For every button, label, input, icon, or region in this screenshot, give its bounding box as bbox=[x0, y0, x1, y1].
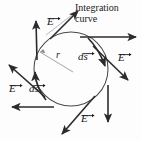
label-E-bottom: E bbox=[81, 113, 88, 124]
label-ds-left-text: ds bbox=[29, 82, 39, 94]
E-vector-bottom bbox=[62, 96, 95, 134]
label-ds-right: ds bbox=[78, 51, 88, 62]
label-E-top-left-text: E bbox=[47, 15, 54, 27]
label-E-right: E bbox=[118, 52, 125, 63]
label-E-left-text: E bbox=[9, 82, 16, 94]
label-E-top-left: E bbox=[47, 16, 54, 27]
radius-label: r bbox=[56, 50, 60, 60]
caption-line-1: Integration bbox=[75, 3, 119, 14]
label-E-bottom-text: E bbox=[81, 112, 88, 124]
integration-curve-circle bbox=[34, 32, 108, 106]
integration-curve-caption: Integration curve bbox=[75, 3, 119, 24]
E-vector-upper-left bbox=[36, 21, 37, 60]
label-ds-right-text: ds bbox=[78, 50, 88, 62]
figure-vector-graphics bbox=[0, 0, 141, 141]
label-E-right-text: E bbox=[118, 51, 125, 63]
caption-line-2: curve bbox=[75, 14, 119, 25]
E-vector-top-left bbox=[50, 11, 78, 39]
integration-curve-figure: Integration curve r E E E bbox=[0, 0, 141, 141]
label-ds-left: ds bbox=[29, 83, 39, 94]
label-E-left: E bbox=[9, 83, 16, 94]
